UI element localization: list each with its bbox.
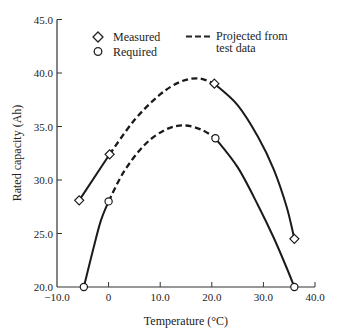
axes [57, 20, 315, 288]
y-tick-label: 30.0 [34, 174, 54, 186]
legend-required-label: Required [113, 45, 157, 59]
measured-solid-segment [214, 84, 294, 239]
x-tick-label: 20.0 [202, 291, 222, 303]
diamond-icon [93, 32, 103, 42]
measured-dashed-segment [110, 78, 215, 154]
x-tick-label: 0 [106, 291, 112, 303]
legend-projected-label-line2: test data [216, 41, 256, 55]
circle-marker [105, 198, 112, 205]
circle-marker [291, 283, 298, 290]
required-solid-segment [215, 138, 294, 287]
required-solid-segment [84, 201, 109, 287]
ticks: −10.0010.020.030.040.020.025.030.035.040… [34, 14, 325, 304]
y-tick-label: 25.0 [34, 228, 54, 240]
y-tick-label: 45.0 [34, 14, 54, 26]
required-dashed-segment [109, 125, 216, 201]
y-tick-label: 35.0 [34, 121, 54, 133]
legend-measured: Measured [93, 30, 160, 44]
circle-marker [212, 135, 219, 142]
x-tick-label: 40.0 [305, 291, 325, 303]
y-axis-label: Rated capacity (Ah) [10, 105, 24, 202]
circle-marker [80, 283, 87, 290]
chart-container: −10.0010.020.030.040.020.025.030.035.040… [0, 0, 338, 335]
legend-measured-label: Measured [113, 30, 160, 44]
chart-svg: −10.0010.020.030.040.020.025.030.035.040… [0, 0, 338, 335]
circle-icon [94, 48, 102, 56]
y-tick-label: 40.0 [34, 67, 54, 79]
measured-solid-segment [79, 154, 109, 200]
data-markers [75, 79, 299, 290]
y-tick-label: 20.0 [34, 281, 54, 293]
x-tick-label: 10.0 [151, 291, 171, 303]
data-curves [79, 78, 294, 287]
x-axis-label: Temperature (°C) [144, 314, 228, 328]
legend-required: Required [94, 45, 157, 59]
legend-projected: Projected from test data [186, 29, 288, 55]
diamond-marker [290, 234, 299, 243]
legend: Measured Required Projected from test da… [93, 29, 288, 59]
x-tick-label: 30.0 [254, 291, 274, 303]
